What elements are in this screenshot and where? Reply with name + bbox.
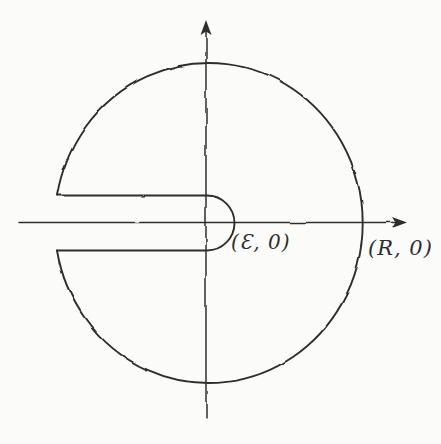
contour-diagram: (Ɛ, 0) (R, 0)	[0, 0, 441, 444]
keyhole-contour-figure: (Ɛ, 0) (R, 0)	[0, 0, 441, 444]
r-point-label: (R, 0)	[368, 236, 433, 260]
epsilon-point-label: (Ɛ, 0)	[231, 230, 291, 254]
